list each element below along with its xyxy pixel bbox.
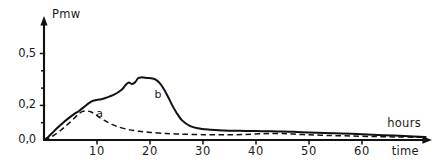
curve-label-a: a: [96, 108, 103, 119]
axes-group: [40, 16, 432, 144]
x-tick-label-10: 10: [89, 146, 105, 158]
y-axis-arrowhead: [40, 16, 47, 25]
y-tick-label-0_2: 0,2: [18, 99, 36, 111]
y-tick-label-0: 0,0: [18, 134, 36, 146]
x-axis-units-label: hours: [387, 118, 421, 130]
x-tick-label-40: 40: [248, 146, 264, 158]
y-axis-title: Pmw: [52, 9, 80, 21]
curve-label-b: b: [155, 89, 162, 100]
y-tick-label-0_5: 0,5: [18, 48, 36, 60]
chart-figure: Pmw time hours 0,00,20,5102030405060ab: [0, 0, 447, 165]
chart-plot-area: [0, 0, 447, 165]
x-tick-label-60: 60: [354, 146, 370, 158]
x-tick-label-20: 20: [142, 146, 158, 158]
x-axis-title: time: [392, 146, 419, 158]
x-tick-label-30: 30: [195, 146, 211, 158]
x-tick-label-50: 50: [301, 146, 317, 158]
